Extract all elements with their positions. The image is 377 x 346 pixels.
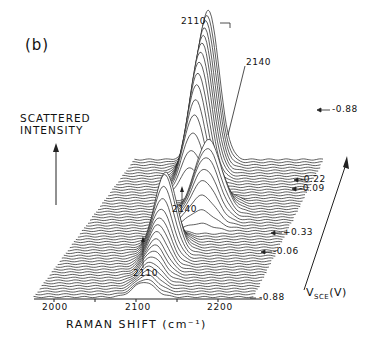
x-tick-label-2200: 2200 [207, 302, 233, 312]
trace-fill [132, 16, 322, 165]
x-tick-label-2100: 2100 [125, 302, 151, 312]
potential-label-plus-0-33: +0.33 [283, 227, 313, 237]
potential-axis-label-main: V [306, 286, 314, 299]
potential-label-minus-0-09: -0.09 [299, 183, 325, 193]
potential-axis-label-sub: SCE [314, 293, 329, 301]
potential-axis-arrow-head [343, 156, 349, 169]
intensity-arrow-head [53, 143, 59, 152]
x-axis-label: RAMAN SHIFT (cm⁻¹) [66, 318, 207, 331]
leader-top-2110 [220, 23, 230, 28]
trace-fill [134, 10, 323, 161]
annotation-top-2110: 2110 [181, 16, 206, 26]
annotation-mid-2140: 2140 [172, 204, 197, 214]
y-axis-label-line2: INTENSITY [20, 124, 91, 136]
potential-label-minus-0-06: -0.06 [273, 246, 299, 256]
panel-label: (b) [25, 36, 49, 54]
annotation-top-2140: 2140 [246, 57, 271, 67]
trace-fill [130, 21, 320, 167]
potential-axis-label-unit: (V) [329, 286, 347, 299]
potential-label-front: -0.88 [259, 292, 285, 302]
leader-top-2140 [228, 66, 245, 135]
potential-label-back: -0.88 [332, 104, 358, 114]
spectrum-trace [132, 16, 322, 163]
potential-axis-label: VSCE(V) [306, 286, 347, 301]
annotation-low-2110: 2110 [133, 268, 158, 278]
x-tick-label-2000: 2000 [42, 302, 68, 312]
y-axis-label-line1: SCATTERED [20, 112, 91, 124]
trace-fill [128, 28, 320, 170]
y-axis-label: SCATTERED INTENSITY [20, 112, 91, 136]
